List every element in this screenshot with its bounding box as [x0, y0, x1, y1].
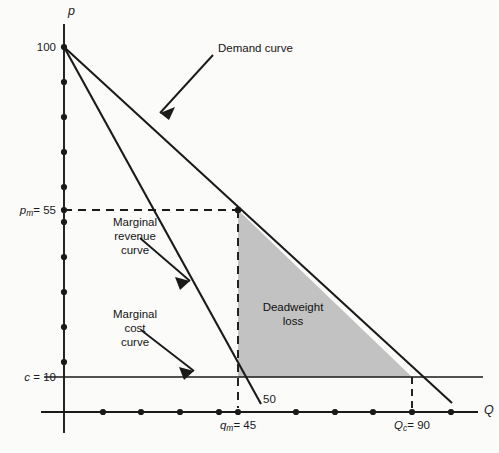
- y-axis-label: p: [68, 4, 75, 19]
- marginal-cost-curve-annotation: Marginal cost curve: [85, 307, 185, 349]
- demand-curve-annotation: Demand curve: [218, 41, 293, 55]
- mr-annot-line-1: Marginal: [85, 215, 185, 229]
- qm-value: = 45: [233, 419, 256, 431]
- y-tick-label-pm: pm= 55: [0, 203, 56, 218]
- x-tick-label-qm: qm= 45: [201, 418, 275, 433]
- mc-annot-line-1: Marginal: [85, 307, 185, 321]
- deadweight-loss-label: Deadweight loss: [246, 300, 340, 328]
- marginal-revenue-curve-annotation: Marginal revenue curve: [85, 215, 185, 257]
- dwl-label-line-2: loss: [246, 314, 340, 328]
- mr-annot-line-3: curve: [85, 243, 185, 257]
- y-tick-label-c: c = 10: [0, 370, 56, 384]
- c-value: = 10: [33, 371, 56, 383]
- qc-symbol: Q: [394, 419, 403, 431]
- x-axis-label: Q: [484, 403, 494, 418]
- x-tick-label-qc: Qc= 90: [375, 418, 449, 433]
- qc-value: = 90: [407, 419, 430, 431]
- mc-annot-line-3: curve: [85, 335, 185, 349]
- monopoly-deadweight-loss-figure: p Q 100 pm= 55 c = 10 qm= 45 Qc= 90 50 D…: [0, 0, 499, 453]
- mc-annot-line-2: cost: [85, 321, 185, 335]
- monopoly-point-marker: [235, 207, 241, 213]
- c-symbol: c: [24, 371, 30, 383]
- dwl-label-line-1: Deadweight: [246, 300, 340, 314]
- y-tick-label-100: 100: [10, 40, 56, 54]
- plot-canvas: [0, 0, 499, 453]
- demand-curve-leader-arrow: [160, 55, 213, 120]
- pm-value: = 55: [33, 204, 56, 216]
- deadweight-loss-region: [238, 210, 412, 377]
- x-tick-label-mr-intercept: 50: [263, 392, 276, 406]
- mr-annot-line-2: revenue: [85, 229, 185, 243]
